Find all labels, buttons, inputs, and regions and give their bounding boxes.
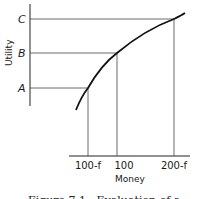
x-tick-200-f: 200-f [161, 160, 188, 171]
utility-curve [76, 13, 185, 110]
figure-caption: Figure 7.1 Evaluation of a [28, 194, 181, 199]
x-axis-label: Money [115, 174, 146, 184]
y-axis-label: Utility [4, 39, 14, 66]
x-tick-100: 100 [114, 160, 133, 171]
y-tick-b: B [18, 47, 26, 60]
y-tick-c: C [18, 13, 26, 26]
x-tick-100-f: 100-f [75, 160, 102, 171]
y-tick-a: A [17, 82, 26, 95]
utility-diagram: C B A Utility 100-f 100 200-f Money Figu… [0, 0, 197, 199]
